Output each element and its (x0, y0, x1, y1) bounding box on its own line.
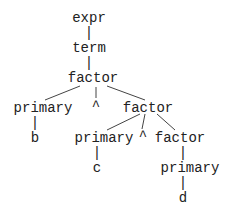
connector-factor3-primary: | (179, 146, 187, 160)
node-expr: expr (72, 11, 106, 25)
node-d: d (179, 191, 187, 205)
node-c: c (93, 161, 101, 175)
edge-factor2-caret2 (142, 114, 145, 129)
node-factor-3: factor (155, 131, 205, 145)
parse-tree-diagram: expr | term | factor primary ^ factor | … (0, 0, 226, 215)
node-factor-2: factor (123, 101, 173, 115)
connector-primary-c: | (93, 146, 101, 160)
edge-factor2-primary2 (107, 114, 140, 130)
node-term: term (72, 41, 106, 55)
node-factor: factor (68, 71, 118, 85)
connector-primary-d: | (179, 176, 187, 190)
connector-term-factor: | (85, 56, 93, 70)
connector-expr-term: | (85, 26, 93, 40)
node-primary-d: primary (161, 161, 220, 175)
node-b: b (31, 131, 39, 145)
edge-factor-factor (107, 86, 145, 100)
node-primary-c: primary (75, 131, 134, 145)
node-caret-2: ^ (139, 129, 147, 143)
connector-primary-b: | (31, 116, 39, 130)
edge-factor2-factor3 (157, 114, 175, 130)
node-caret: ^ (92, 99, 100, 113)
node-primary-b: primary (14, 101, 73, 115)
edge-factor-primary (45, 86, 80, 100)
